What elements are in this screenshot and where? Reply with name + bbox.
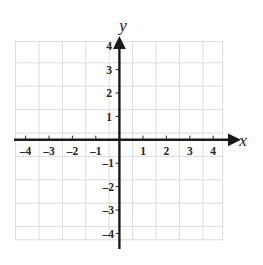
y-tick-label: 1 bbox=[106, 111, 112, 123]
coordinate-plane-svg: –4 –3 –2 –1 1 2 3 4 4 3 2 1 –1 –2 –3 –4 … bbox=[0, 0, 263, 265]
y-tick-label: –2 bbox=[102, 181, 115, 193]
y-tick-label: 2 bbox=[106, 87, 112, 99]
y-tick-label: –1 bbox=[102, 157, 115, 169]
y-tick-label: 3 bbox=[106, 64, 112, 76]
x-tick-label: –3 bbox=[42, 145, 55, 157]
y-axis-label: y bbox=[117, 16, 127, 35]
x-tick-label: –1 bbox=[89, 145, 102, 157]
y-tick-label: –3 bbox=[102, 204, 115, 216]
y-tick-label: –4 bbox=[102, 228, 115, 240]
x-tick-label: 3 bbox=[187, 145, 193, 157]
x-tick-label: 2 bbox=[164, 145, 170, 157]
x-tick-label: 1 bbox=[140, 145, 146, 157]
coordinate-plane-figure: –4 –3 –2 –1 1 2 3 4 4 3 2 1 –1 –2 –3 –4 … bbox=[0, 0, 263, 265]
x-tick-label: 4 bbox=[210, 145, 216, 157]
x-tick-label: –2 bbox=[66, 145, 79, 157]
x-axis-label: x bbox=[238, 131, 247, 150]
x-tick-label: –4 bbox=[19, 145, 32, 157]
y-tick-label: 4 bbox=[106, 40, 112, 52]
